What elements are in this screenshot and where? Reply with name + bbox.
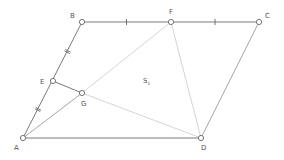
point-d[interactable] <box>198 135 203 140</box>
point-f[interactable] <box>168 19 173 24</box>
point-label-c: C <box>265 12 270 20</box>
point-g[interactable] <box>79 90 84 95</box>
region-label-s1: S1 <box>143 77 150 86</box>
segment-gd <box>82 93 201 138</box>
point-label-d: D <box>201 144 206 152</box>
geometry-diagram: ABCDEFG S1 <box>0 0 284 160</box>
segment-cd <box>201 22 259 138</box>
segment-fg <box>82 22 171 93</box>
point-label-a: A <box>14 144 19 152</box>
segment-fd <box>171 22 201 138</box>
point-label-b: B <box>70 12 75 20</box>
point-c[interactable] <box>256 19 261 24</box>
segment-eg <box>53 81 82 93</box>
point-b[interactable] <box>79 19 84 24</box>
segments <box>23 22 259 138</box>
equal-length-marks <box>35 19 215 112</box>
point-label-e: E <box>40 78 44 86</box>
points <box>20 19 261 140</box>
point-label-f: F <box>169 8 173 16</box>
segment-ag <box>23 93 82 138</box>
point-e[interactable] <box>50 78 55 83</box>
point-label-g: G <box>81 100 86 108</box>
point-a[interactable] <box>20 135 25 140</box>
